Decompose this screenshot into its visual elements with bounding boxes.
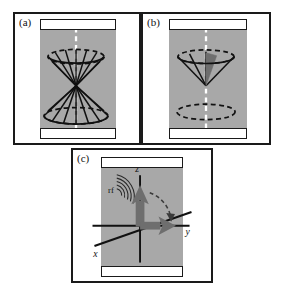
coil-plate-top-c xyxy=(101,157,183,168)
panel-label-a: (a) xyxy=(19,16,31,29)
panel-a-graphics xyxy=(15,14,139,143)
y-axis-label: y xyxy=(184,226,190,237)
coil-plate-top-a xyxy=(40,19,116,30)
panel-c-graphics: z y x rf xyxy=(73,150,211,281)
panel-c: (c) z y x rf xyxy=(71,148,213,283)
figure-root: (a) xyxy=(0,0,285,288)
spin-vectors-lower-a xyxy=(44,86,108,124)
radio-wave-icon xyxy=(117,175,135,204)
coil-plate-top-b xyxy=(169,19,247,30)
spin-vectors-upper-a xyxy=(48,49,104,85)
rf-label: rf xyxy=(108,185,114,195)
panel-label-b: (b) xyxy=(147,16,160,29)
panel-b: (b) xyxy=(141,12,271,145)
panel-a: (a) xyxy=(13,12,141,145)
coil-plate-bottom-b xyxy=(169,128,247,139)
coil-plate-bottom-c xyxy=(101,266,183,277)
panel-label-c: (c) xyxy=(77,152,89,165)
panel-b-graphics xyxy=(143,14,269,143)
coil-plate-bottom-a xyxy=(40,128,116,139)
x-axis-label: x xyxy=(92,248,98,259)
